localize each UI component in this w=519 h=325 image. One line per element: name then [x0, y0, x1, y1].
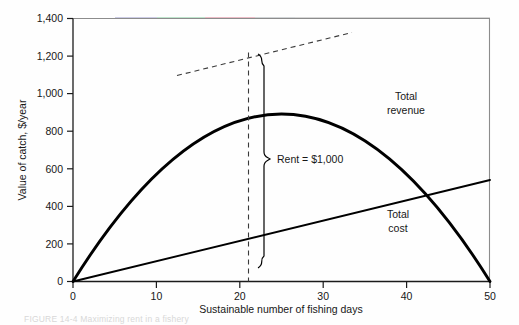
- y-tick-labels: 1,400 1,200 1,000 800 600 400 200 0: [37, 12, 63, 287]
- x-tick-label: 50: [484, 290, 496, 302]
- total-cost-label-line2: cost: [388, 222, 407, 234]
- y-tick-label: 600: [45, 163, 63, 175]
- y-tick-label: 800: [45, 125, 63, 137]
- x-tick-label: 40: [401, 290, 413, 302]
- figure-container: 1,400 1,200 1,000 800 600 400 200 0 0 10…: [0, 0, 519, 325]
- x-tick-label: 30: [317, 290, 329, 302]
- x-tick-label: 10: [151, 290, 163, 302]
- rent-label: Rent = $1,000: [277, 153, 343, 165]
- total-cost-label-line1: Total: [387, 208, 409, 220]
- x-tick-label: 20: [234, 290, 246, 302]
- y-tick-label: 1,400: [37, 12, 63, 24]
- x-tick-labels: 0 10 20 30 40 50: [70, 290, 496, 302]
- y-axis-title: Value of catch, $/year: [16, 99, 28, 200]
- total-revenue-label-line1: Total: [395, 90, 417, 102]
- figure-caption: FIGURE 14-4 Maximizing rent in a fishery: [24, 314, 189, 324]
- total-revenue-curve: [73, 114, 490, 282]
- total-revenue-label-line2: revenue: [387, 104, 425, 116]
- y-tick-label: 0: [57, 275, 63, 287]
- fishery-rent-chart: 1,400 1,200 1,000 800 600 400 200 0 0 10…: [0, 0, 519, 325]
- y-tick-label: 400: [45, 200, 63, 212]
- x-axis-title: Sustainable number of fishing days: [199, 303, 362, 315]
- y-tick-label: 200: [45, 238, 63, 250]
- y-tick-label: 1,000: [37, 87, 63, 99]
- y-axis: [67, 19, 73, 282]
- y-tick-label: 1,200: [37, 50, 63, 62]
- x-axis: [73, 282, 490, 289]
- plot-frame: [73, 19, 490, 282]
- x-tick-label: 0: [70, 290, 76, 302]
